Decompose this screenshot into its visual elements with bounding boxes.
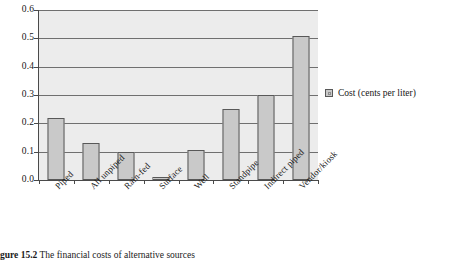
y-axis-tick-label: 0.0 [4,175,34,185]
y-axis-tick-label: 0.4 [4,62,34,72]
bar [48,118,65,180]
figure-caption-number: gure 15.2 [0,250,37,260]
bar [257,95,274,180]
y-axis-tick-label: 0.3 [4,90,34,100]
plot-area [38,10,318,181]
bar [222,109,239,180]
bar-slot [179,10,214,180]
x-axis-tick-mark [318,180,319,184]
y-axis: 0.00.10.20.30.40.50.6 [0,0,34,190]
cost-series-swatch-icon [325,89,333,97]
figure-container: 0.00.10.20.30.40.50.6 PipedAll unpipedRa… [0,0,449,261]
chart-legend: Cost (cents per liter) [325,88,416,98]
bar-slot [144,10,179,180]
figure-caption-text: The financial costs of alternative sourc… [40,250,195,260]
bar-slot [74,10,109,180]
y-axis-tick-label: 0.2 [4,118,34,128]
y-axis-tick-label: 0.1 [4,147,34,157]
bar-series-cost [39,10,318,180]
bar-slot [39,10,74,180]
bar-slot [213,10,248,180]
legend-label: Cost (cents per liter) [338,88,416,98]
y-axis-tick-label: 0.5 [4,33,34,43]
y-axis-tick-label: 0.6 [4,5,34,15]
bar-slot [109,10,144,180]
bar-slot [248,10,283,180]
figure-caption: gure 15.2 The financial costs of alterna… [0,250,449,261]
x-axis-labels: PipedAll unpipedRain-fedSurfaceWellStand… [38,184,317,244]
